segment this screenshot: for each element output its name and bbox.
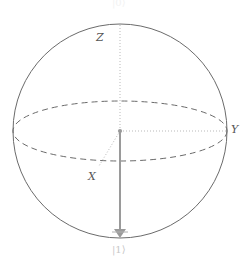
ket-one-label: |1⟩ xyxy=(112,245,126,255)
ket-zero-label: |0⟩ xyxy=(112,0,126,8)
bloch-sphere-canvas xyxy=(0,0,249,267)
y-axis-label: Y xyxy=(231,124,238,135)
bloch-sphere-figure: Z Y X |1⟩ |0⟩ xyxy=(0,0,249,267)
x-axis-label: X xyxy=(88,171,96,182)
state-vector-arrowhead xyxy=(114,229,126,238)
z-axis-label: Z xyxy=(96,32,104,43)
